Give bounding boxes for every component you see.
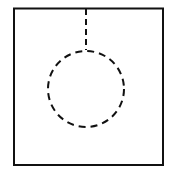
diagram-canvas	[0, 0, 173, 178]
dashed-circle	[48, 51, 124, 127]
outer-square	[14, 9, 163, 166]
